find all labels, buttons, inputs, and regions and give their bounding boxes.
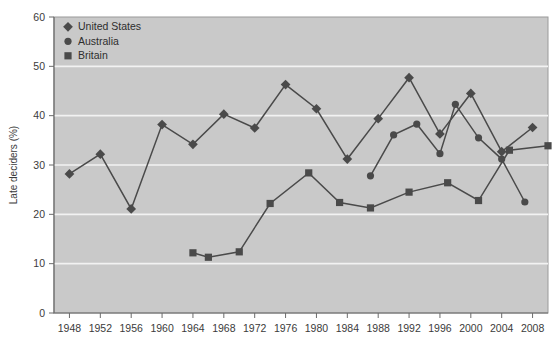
legend-square-icon	[64, 52, 71, 59]
square-marker	[405, 189, 412, 196]
legend-label: United States	[78, 20, 141, 32]
x-tick-label: 1968	[212, 322, 236, 334]
square-marker	[189, 249, 196, 256]
x-tick-label: 1960	[150, 322, 174, 334]
circle-marker	[521, 198, 528, 205]
y-tick-label: 0	[39, 307, 45, 319]
square-marker	[305, 169, 312, 176]
y-tick-label: 40	[33, 109, 45, 121]
x-tick-label: 2004	[490, 322, 514, 334]
square-marker	[475, 197, 482, 204]
square-marker	[444, 179, 451, 186]
x-tick-label: 1988	[367, 322, 391, 334]
line-chart: 0102030405060 19481952195619601964196819…	[0, 0, 559, 344]
y-tick-label: 10	[33, 257, 45, 269]
x-tick-label: 1992	[397, 322, 421, 334]
x-axis-ticks	[69, 313, 532, 318]
x-axis-tick-labels: 1948195219561960196419681972197619801984…	[58, 322, 545, 334]
chart-figure: 0102030405060 19481952195619601964196819…	[0, 0, 559, 344]
legend-circle-icon	[64, 38, 71, 45]
y-tick-label: 50	[33, 60, 45, 72]
y-axis-tick-labels: 0102030405060	[33, 11, 45, 319]
legend-label: Britain	[78, 49, 108, 61]
circle-marker	[390, 131, 397, 138]
square-marker	[336, 199, 343, 206]
legend-label: Australia	[78, 35, 119, 47]
y-tick-label: 60	[33, 11, 45, 23]
x-tick-label: 2008	[521, 322, 545, 334]
square-marker	[236, 248, 243, 255]
x-tick-label: 1956	[120, 322, 144, 334]
square-marker	[205, 254, 212, 261]
circle-marker	[436, 150, 443, 157]
circle-marker	[475, 134, 482, 141]
x-tick-label: 1996	[428, 322, 452, 334]
square-marker	[506, 147, 513, 154]
x-tick-label: 1976	[274, 322, 298, 334]
square-marker	[544, 142, 551, 149]
x-tick-label: 1952	[89, 322, 113, 334]
x-tick-label: 1948	[58, 322, 82, 334]
square-marker	[367, 204, 374, 211]
x-tick-label: 1980	[305, 322, 329, 334]
circle-marker	[452, 101, 459, 108]
x-tick-label: 2000	[459, 322, 483, 334]
x-tick-label: 1964	[181, 322, 205, 334]
circle-marker	[413, 120, 420, 127]
y-tick-label: 20	[33, 208, 45, 220]
y-axis-ticks	[49, 17, 54, 313]
x-tick-label: 1972	[243, 322, 267, 334]
circle-marker	[367, 172, 374, 179]
square-marker	[267, 200, 274, 207]
y-tick-label: 30	[33, 159, 45, 171]
y-axis-title: Late deciders (%)	[8, 126, 19, 204]
x-tick-label: 1984	[336, 322, 360, 334]
